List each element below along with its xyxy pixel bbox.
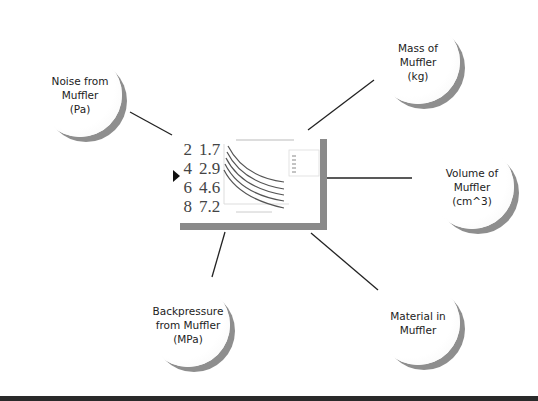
curves: [224, 146, 284, 208]
bubble-backpressure: Backpressure from Muffler (MPa): [146, 283, 230, 367]
bubble-label: Mass of Muffler (kg): [398, 41, 438, 83]
bubble-label: Volume of Muffler (cm^3): [446, 166, 499, 208]
bubble-label: Material in Muffler: [390, 309, 446, 337]
panel-shadow-right: [320, 139, 327, 230]
connector-material: [311, 233, 378, 290]
bubble-mass: Mass of Muffler (kg): [376, 20, 460, 104]
bubble-label: Noise from Muffler (Pa): [52, 74, 109, 116]
connector-mass: [308, 80, 374, 130]
bubble-volume: Volume of Muffler (cm^3): [430, 145, 514, 229]
bubble-material: Material in Muffler: [376, 281, 460, 365]
bubble-noise: Noise from Muffler (Pa): [38, 53, 122, 137]
footer-bar: [0, 396, 538, 401]
connector-backpressure: [212, 232, 225, 277]
bubble-label: Backpressure from Muffler (MPa): [153, 304, 224, 346]
pointer-arrow-icon: [173, 170, 180, 182]
mini-chart: [214, 132, 320, 220]
connector-noise: [130, 112, 172, 135]
panel-shadow-bottom: [180, 223, 327, 230]
